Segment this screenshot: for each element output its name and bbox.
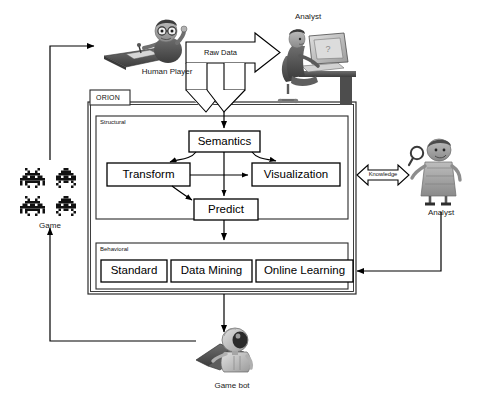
node-label-online-learning: Online Learning xyxy=(256,265,353,277)
structural-panel-label: Structural xyxy=(100,119,126,125)
human-player-caption: Human Player xyxy=(113,68,221,76)
knowledge-arrow-label: Knowledge xyxy=(358,172,408,178)
analyst-right-figure xyxy=(409,139,460,204)
diagram-canvas: ? xyxy=(0,0,480,407)
game-bot-caption: Game bot xyxy=(197,382,267,390)
connector-analyst-to-online-learning xyxy=(357,212,441,271)
analyst-right-caption: Analyst xyxy=(411,209,471,217)
game-bot-figure xyxy=(196,328,251,372)
node-label-data-mining: Data Mining xyxy=(171,265,252,277)
node-label-standard: Standard xyxy=(101,265,167,277)
node-label-semantics: Semantics xyxy=(189,136,260,148)
behavioral-panel-label: Behavioral xyxy=(100,246,128,252)
node-label-visualization: Visualization xyxy=(252,169,340,181)
node-label-transform: Transform xyxy=(107,169,190,181)
analyst-top-caption: Analyst xyxy=(278,13,338,21)
analyst-top-figure: ? xyxy=(278,29,356,105)
human-player-figure xyxy=(104,20,187,70)
game-caption: Game xyxy=(20,222,80,230)
orion-tab-label: ORION xyxy=(96,94,120,101)
raw-data-arrow-label: Raw Data xyxy=(186,49,255,57)
svg-text:?: ? xyxy=(325,44,330,54)
node-label-predict: Predict xyxy=(194,204,258,216)
game-sprites xyxy=(20,168,76,216)
